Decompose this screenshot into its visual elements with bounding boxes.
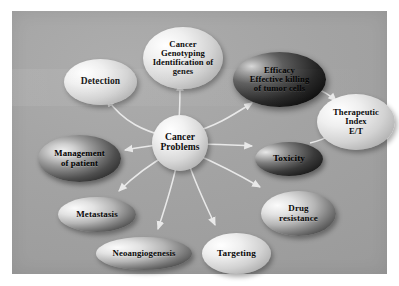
node-label-line: resistance bbox=[277, 214, 320, 223]
node-cancer-problems[interactable]: Cancer Problems bbox=[152, 115, 208, 171]
node-targeting[interactable]: Targeting bbox=[202, 233, 271, 274]
node-label-line: of tumor cells bbox=[248, 84, 312, 93]
node-therapeutic-index[interactable]: Therapeutic Index E/T bbox=[317, 94, 395, 150]
node-detection[interactable]: Detection bbox=[64, 59, 137, 105]
diagram-panel: Cancer Problems Detection Cancer Genotyp… bbox=[12, 11, 387, 274]
node-label-line: of patient bbox=[52, 159, 106, 168]
node-label-line: Neoangiogenesis bbox=[110, 249, 177, 258]
node-cancer-genotyping[interactable]: Cancer Genotyping Identification of gene… bbox=[143, 27, 223, 89]
node-label-line: genes bbox=[151, 67, 216, 76]
node-drug-resistance[interactable]: Drug resistance bbox=[261, 191, 336, 236]
node-label-line: Toxicity bbox=[271, 154, 307, 164]
node-efficacy[interactable]: Efficacy Effective killing of tumor cell… bbox=[233, 52, 326, 107]
node-label-line: E/T bbox=[331, 127, 381, 136]
node-label-line: Problems bbox=[158, 143, 201, 153]
figure-canvas: Cancer Problems Detection Cancer Genotyp… bbox=[0, 0, 399, 286]
node-label-line: Metastasis bbox=[74, 210, 120, 219]
node-toxicity[interactable]: Toxicity bbox=[255, 142, 323, 176]
node-label-line: Detection bbox=[79, 77, 122, 87]
node-metastasis[interactable]: Metastasis bbox=[58, 197, 136, 232]
node-label-line: Targeting bbox=[215, 249, 258, 259]
node-management-of-patient[interactable]: Management of patient bbox=[38, 135, 121, 182]
node-neoangiogenesis[interactable]: Neoangiogenesis bbox=[96, 237, 192, 270]
